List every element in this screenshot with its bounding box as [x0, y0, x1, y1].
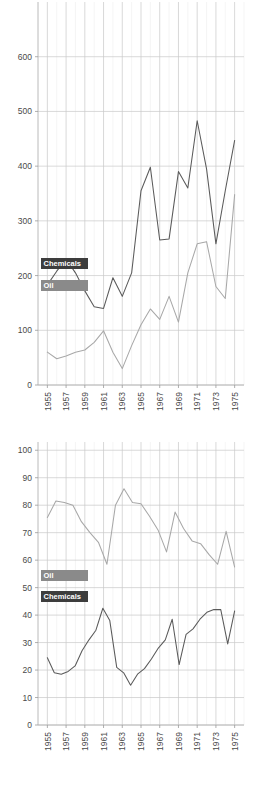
legend-label: Oil [44, 571, 54, 580]
y-tick-label: 60 [23, 555, 33, 565]
x-tick-label: 1955 [43, 732, 53, 751]
x-tick-label: 1959 [80, 392, 90, 411]
x-tick-label: 1975 [230, 392, 240, 411]
y-tick-label: 90 [23, 473, 33, 483]
line-chart-top: 0100200300400500600195519571959196119631… [0, 0, 260, 440]
x-tick-label: 1967 [155, 392, 165, 411]
legend-item-oil: Oil [41, 570, 88, 581]
y-tick-label: 100 [18, 445, 32, 455]
y-tick-label: 50 [23, 583, 33, 593]
chart-panel-top: 0100200300400500600195519571959196119631… [0, 0, 260, 440]
x-tick-label: 1963 [117, 732, 127, 751]
y-tick-label: 500 [18, 106, 32, 116]
legend-item-chemicals: Chemicals [41, 591, 88, 602]
x-tick-label: 1965 [136, 732, 146, 751]
y-tick-label: 200 [18, 271, 32, 281]
legend-label: Oil [44, 281, 54, 290]
x-tick-label: 1955 [43, 392, 53, 411]
x-tick-label: 1963 [117, 392, 127, 411]
legend-item-chemicals: Chemicals [41, 258, 88, 269]
x-tick-label: 1973 [211, 732, 221, 751]
y-tick-label: 0 [27, 720, 32, 730]
legend-item-oil: Oil [41, 280, 88, 291]
x-tick-label: 1965 [136, 392, 146, 411]
x-tick-label: 1971 [192, 392, 202, 411]
y-tick-label: 0 [27, 380, 32, 390]
y-tick-label: 40 [23, 610, 33, 620]
line-chart-bottom: 0102030405060708090100195519571959196119… [0, 440, 260, 798]
x-tick-label: 1969 [174, 732, 184, 751]
x-tick-label: 1957 [61, 732, 71, 751]
y-tick-label: 80 [23, 500, 33, 510]
x-tick-label: 1959 [80, 732, 90, 751]
y-tick-label: 10 [23, 693, 33, 703]
legend-label: Chemicals [44, 259, 82, 268]
chart-panel-bottom: 0102030405060708090100195519571959196119… [0, 440, 260, 798]
y-tick-label: 30 [23, 638, 33, 648]
y-tick-label: 20 [23, 665, 33, 675]
x-tick-label: 1971 [192, 732, 202, 751]
y-tick-label: 600 [18, 52, 32, 62]
y-tick-label: 300 [18, 216, 32, 226]
y-tick-label: 100 [18, 325, 32, 335]
chart-stack: 0100200300400500600195519571959196119631… [0, 0, 260, 798]
x-tick-label: 1961 [99, 392, 109, 411]
legend-label: Chemicals [44, 592, 82, 601]
x-tick-label: 1967 [155, 732, 165, 751]
x-tick-label: 1957 [61, 392, 71, 411]
x-tick-label: 1973 [211, 392, 221, 411]
y-tick-label: 400 [18, 161, 32, 171]
y-tick-label: 70 [23, 528, 33, 538]
x-tick-label: 1969 [174, 392, 184, 411]
x-tick-label: 1961 [99, 732, 109, 751]
x-tick-label: 1975 [230, 732, 240, 751]
